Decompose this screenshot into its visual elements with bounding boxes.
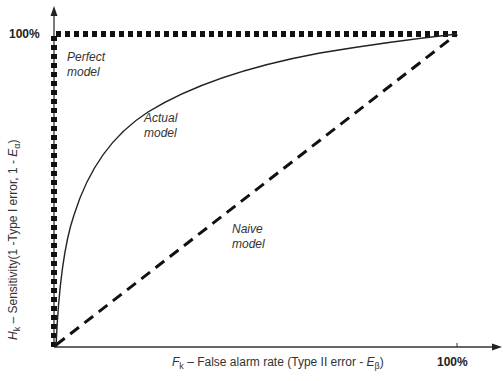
y-axis-var: H [6,331,20,340]
naive-model-label-line2: model [232,237,265,252]
perfect-model-label-line1: Perfect [67,50,105,65]
perfect-model-label: Perfect model [67,50,105,80]
x-axis-text: – False alarm rate (Type II error - [184,355,367,369]
y-axis-arrow-icon [51,6,58,16]
x-axis-label: Fk – False alarm rate (Type II error - E… [172,355,384,371]
x-axis-arrow-icon [492,344,502,351]
actual-model-label-line1: Actual [144,111,177,126]
x-axis-end: ) [380,355,384,369]
x-tick-label-100: 100% [437,355,468,369]
y-axis-err: E [6,149,20,157]
y-axis-err-sub: α [12,144,22,149]
perfect-model-label-line2: model [67,65,105,80]
y-axis-text: – Sensitivity(1 -Type I error, 1 - [6,157,20,327]
x-axis-err: E [367,355,375,369]
actual-model-label: Actual model [144,111,177,141]
y-axis-sub: k [12,327,22,332]
naive-model-line [56,34,457,345]
y-tick-label-100: 100% [9,27,40,41]
naive-model-label-line1: Naive [232,222,265,237]
y-axis-label: Hk – Sensitivity(1 -Type I error, 1 - Eα… [6,140,22,340]
actual-model-label-line2: model [144,126,177,141]
naive-model-label: Naive model [232,222,265,252]
y-axis-end: ) [6,140,20,144]
